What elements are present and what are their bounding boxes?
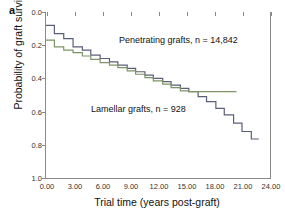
x-tick-label: 6.00 <box>96 182 111 191</box>
x-tick-mark <box>131 12 132 16</box>
penetrating-grafts-annotation: Penetrating grafts, n = 14,842 <box>119 35 238 45</box>
y-tick-mark <box>42 178 46 179</box>
y-tick-mark <box>42 145 46 146</box>
x-tick-mark <box>103 12 104 16</box>
plot-area: 1.00.80.60.40.20.0 0.003.006.009.0012.00… <box>45 12 271 178</box>
x-tick-label: 12.00 <box>150 182 169 191</box>
y-tick-label: 0.2 <box>32 41 42 50</box>
x-tick-label: 0.00 <box>40 182 55 191</box>
x-tick-label: 3.00 <box>68 182 83 191</box>
x-tick-label: 18.00 <box>206 182 225 191</box>
x-tick-label: 15.00 <box>178 182 197 191</box>
lamellar-grafts-annotation: Lamellar grafts, n = 928 <box>91 104 186 114</box>
y-tick-label: 0.6 <box>32 107 42 116</box>
x-tick-mark <box>271 12 272 16</box>
y-tick-label: 0.0 <box>32 8 42 17</box>
y-tick-mark <box>42 45 46 46</box>
lamellar-grafts-curve <box>46 40 236 91</box>
x-tick-mark <box>243 12 244 16</box>
y-axis-label: Probability of graft survival <box>12 0 24 128</box>
y-tick-mark <box>42 12 46 13</box>
x-tick-label: 9.00 <box>124 182 139 191</box>
y-tick-mark <box>42 112 46 113</box>
x-tick-mark <box>187 12 188 16</box>
y-tick-label: 0.8 <box>32 140 42 149</box>
y-tick-mark <box>42 78 46 79</box>
x-tick-label: 21.00 <box>234 182 253 191</box>
x-tick-label: 24.00 <box>262 182 281 191</box>
x-axis-label: Trial time (years post-graft) <box>45 196 269 208</box>
x-tick-mark <box>75 12 76 16</box>
x-tick-mark <box>215 12 216 16</box>
x-tick-mark <box>159 12 160 16</box>
figure-panel-a: a Probability of graft survival 1.00.80.… <box>0 0 285 215</box>
y-tick-label: 0.4 <box>32 74 42 83</box>
x-tick-mark <box>47 12 48 16</box>
